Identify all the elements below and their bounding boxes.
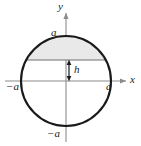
shaded-segment [27,37,105,60]
label-a-right: a [106,81,112,92]
circle-segment-figure: y x a a −a −a h [0,0,141,146]
label-negative-a-bottom: −a [47,128,60,139]
x-axis-label: x [130,74,135,85]
y-axis-label: y [58,1,63,12]
figure-canvas [0,0,141,146]
h-dimension-arrow [67,60,72,82]
y-axis-arrowhead [63,13,68,19]
x-axis-arrowhead [120,78,126,83]
label-h: h [74,64,80,75]
label-negative-a-left: −a [6,81,19,92]
label-a-top: a [51,27,57,38]
